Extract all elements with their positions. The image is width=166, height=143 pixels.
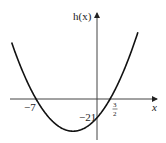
x-tick-label-neg7: −7 <box>24 101 36 113</box>
h-curve <box>12 32 138 131</box>
y-intercept-label: −21 <box>79 111 96 123</box>
x-axis-label: x <box>151 101 157 113</box>
parabola-chart: h(x) x −7 −21 3 2 <box>0 0 166 143</box>
fraction-numerator: 3 <box>113 101 117 109</box>
fraction-denominator: 2 <box>113 110 117 118</box>
y-axis-label: h(x) <box>73 10 92 23</box>
x-tick-label-3-2: 3 2 <box>113 101 118 118</box>
